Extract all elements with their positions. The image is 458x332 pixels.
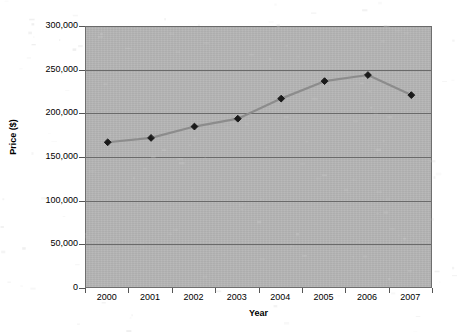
x-tick-label: 2000: [85, 292, 129, 302]
y-tick-label: 200,000: [20, 108, 78, 117]
y-tick-label: 100,000: [20, 196, 78, 205]
x-tick-label: 2005: [302, 292, 346, 302]
x-tick-label: 2007: [388, 292, 432, 302]
data-point-marker: [191, 123, 198, 130]
x-tick-label: 2002: [171, 292, 215, 302]
x-tick-label: 2003: [215, 292, 259, 302]
data-point-marker: [408, 92, 415, 99]
line-chart: Price ($) 050,000100,000150,000200,00025…: [0, 0, 458, 332]
data-point-marker: [365, 72, 372, 79]
y-tick-label: 150,000: [20, 152, 78, 161]
x-axis-title: Year: [85, 308, 432, 318]
data-point-marker: [148, 135, 155, 142]
data-point-marker: [234, 115, 241, 122]
data-point-marker: [104, 139, 111, 146]
x-tick-label: 2004: [258, 292, 302, 302]
series-line-price: [86, 27, 433, 289]
data-point-marker: [278, 95, 285, 102]
x-axis-tick-labels: 20002001200220032004200520062007: [85, 292, 432, 308]
y-tick-label: 300,000: [20, 21, 78, 30]
y-axis-title: Price ($): [8, 102, 18, 172]
series-line: [108, 75, 412, 142]
x-tick-label: 2006: [345, 292, 389, 302]
plot-area: [85, 26, 432, 288]
data-point-marker: [321, 78, 328, 85]
y-tick-label: 0: [20, 283, 78, 292]
y-tick-label: 50,000: [20, 239, 78, 248]
y-axis-tick-labels: 050,000100,000150,000200,000250,000300,0…: [18, 0, 78, 332]
x-tick-label: 2001: [128, 292, 172, 302]
y-tick-label: 250,000: [20, 65, 78, 74]
